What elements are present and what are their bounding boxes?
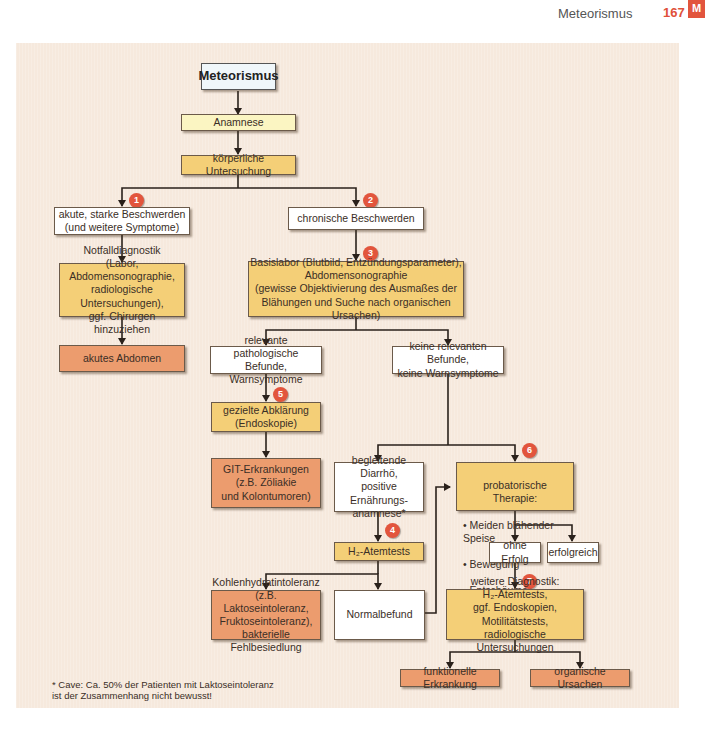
footnote: * Cave: Ca. 50% der Patienten mit Laktos…	[52, 679, 274, 702]
step-badge-5: 5	[273, 387, 288, 402]
box-keine-befunde: keine relevanten Befunde, keine Warnsymp…	[392, 346, 504, 374]
box-erfolgreich: erfolgreich	[547, 542, 599, 563]
box-notfalldiagnostik: Notfalldiagnostik (Labor, Abdomensonogra…	[59, 263, 185, 317]
step-badge-4: 4	[385, 523, 400, 538]
box-kohlenhydratintoleranz: Kohlenhydratintoleranz (z.B. Laktoseinto…	[211, 590, 321, 640]
step-badge-1: 1	[129, 193, 144, 208]
box-git-erkrankungen: GIT-Erkrankungen (z.B. Zöliakie und Kolo…	[211, 458, 321, 508]
step-badge-2: 2	[363, 193, 378, 208]
box-funktionelle-erkrankung: funktionelle Erkrankung	[400, 669, 500, 687]
box-chronische-beschwerden: chronische Beschwerden	[288, 207, 424, 230]
box-basislabor: Basislabor (Blutbild, Entzündungsparamet…	[248, 261, 464, 317]
box-h2-atemtests: H₂-Atemtests	[334, 542, 424, 561]
title-box-meteorismus: Meteorismus	[201, 63, 276, 90]
box-relevante-befunde: relevante pathologische Befunde, Warnsym…	[210, 346, 322, 374]
box-weitere-diagnostik: weitere Diagnostik: H₂-Atemtests, ggf. E…	[446, 589, 584, 640]
step-badge-6: 6	[522, 443, 537, 458]
box-akutes-abdomen: akutes Abdomen	[59, 345, 185, 372]
box-organische-ursachen: organische Ursachen	[530, 669, 630, 687]
box-akute-beschwerden: akute, starke Beschwerden (und weitere S…	[54, 207, 190, 235]
therapie-heading: probatorische Therapie:	[463, 479, 567, 505]
box-anamnese: Anamnese	[181, 114, 296, 131]
box-gezielte-abklaerung: gezielte Abklärung (Endoskopie)	[211, 402, 321, 432]
box-koerperliche-untersuchung: körperliche Untersuchung	[181, 155, 296, 175]
box-probatorische-therapie: probatorische Therapie: • Meiden blähend…	[456, 462, 574, 511]
box-ohne-erfolg: ohne Erfolg	[489, 542, 541, 563]
box-normalbefund: Normalbefund	[334, 590, 425, 640]
box-begleitende-diarrhoe: begleitende Diarrhö, positive Ernährungs…	[334, 462, 424, 512]
